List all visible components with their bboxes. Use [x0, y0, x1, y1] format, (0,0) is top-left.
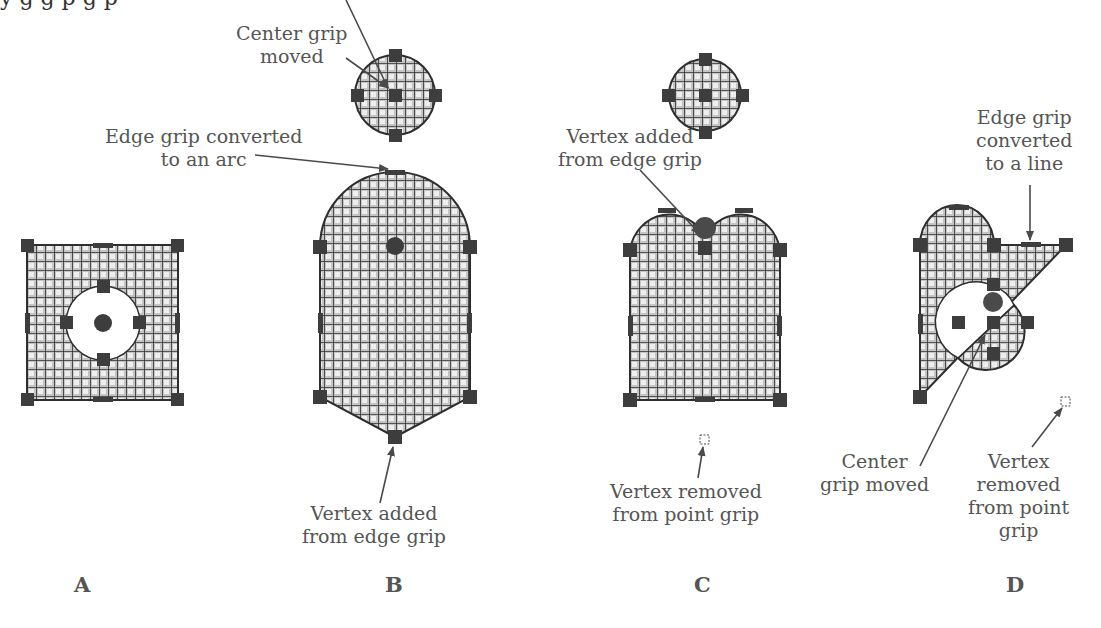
label-line: grip moved: [820, 473, 929, 496]
edge-grip-icon: [949, 205, 969, 210]
point-grip-icon: [987, 238, 1001, 252]
arrow-icon: [698, 447, 703, 478]
grip-icon: [351, 89, 364, 102]
panel-b-small-circle: [351, 49, 442, 142]
grip-icon: [952, 316, 965, 329]
label-line: Center grip: [236, 22, 348, 45]
grip-icon: [699, 53, 712, 66]
point-grip-icon: [21, 239, 34, 252]
label-vertex-added-c: Vertex added from edge grip: [558, 125, 702, 171]
label-line: Vertex: [968, 450, 1069, 473]
point-grip-icon: [171, 239, 184, 252]
grip-icon: [987, 347, 1000, 360]
point-grip-icon: [913, 238, 927, 252]
arrow-icon: [1032, 408, 1062, 447]
point-grip-icon: [773, 393, 787, 407]
label-line: Edge grip converted: [105, 125, 302, 148]
added-vertex-grip-icon: [388, 430, 402, 444]
label-line: Vertex added: [302, 502, 446, 525]
hole-grip-icon: [133, 316, 146, 329]
removed-vertex-icon: [700, 435, 709, 444]
center-grip-icon: [389, 89, 402, 102]
label-center-grip-moved-b: Center grip moved: [236, 22, 348, 68]
arrow-icon: [380, 447, 393, 503]
edge-grip-icon: [25, 313, 30, 333]
center-grip-icon: [386, 237, 404, 255]
point-grip-icon: [313, 240, 327, 254]
center-grip-icon: [94, 314, 112, 332]
grip-icon: [987, 278, 1000, 291]
grip-icon: [429, 89, 442, 102]
point-grip-icon: [313, 390, 327, 404]
edge-grip-icon: [93, 397, 113, 402]
edge-grip-icon: [918, 314, 923, 334]
panel-letter-b: B: [385, 572, 403, 597]
hole-grip-icon: [97, 353, 110, 366]
edge-grip-icon: [735, 208, 753, 213]
edge-grip-icon: [318, 313, 323, 333]
label-line: Edge grip: [976, 106, 1072, 129]
panel-letter-a: A: [74, 572, 90, 597]
point-grip-icon: [773, 243, 787, 257]
point-grip-icon: [21, 393, 34, 406]
label-line: grip: [968, 519, 1069, 542]
center-grip-icon: [983, 292, 1003, 312]
edge-grip-icon: [1021, 242, 1041, 247]
point-grip-icon: [913, 390, 927, 404]
grip-icon: [389, 129, 402, 142]
label-line: Vertex added: [558, 125, 702, 148]
edge-grip-icon: [777, 316, 782, 336]
grip-icon: [389, 49, 402, 62]
label-line: Center: [820, 450, 929, 473]
panel-a-shape: [21, 239, 184, 406]
panel-letter-c: C: [694, 572, 711, 597]
point-grip-icon: [171, 393, 184, 406]
edge-grip-icon: [628, 316, 633, 336]
label-line: to a line: [976, 152, 1072, 175]
grip-icon: [1021, 316, 1034, 329]
panel-c-shape: [623, 208, 787, 407]
edge-grip-icon: [695, 397, 715, 402]
panel-b-shape: [313, 170, 477, 444]
label-line: from point: [968, 496, 1069, 519]
removed-vertex-icon: [1061, 397, 1070, 406]
center-grip-icon: [694, 217, 716, 239]
grip-icon: [987, 316, 1000, 329]
edge-grip-icon: [658, 208, 676, 213]
point-grip-icon: [463, 390, 477, 404]
label-line: removed: [968, 473, 1069, 496]
point-grip-icon: [1059, 238, 1073, 252]
grip-icon: [662, 89, 675, 102]
hole-grip-icon: [60, 316, 73, 329]
label-line: converted: [976, 129, 1072, 152]
grip-icon: [736, 89, 749, 102]
label-edge-grip-line: Edge grip converted to a line: [976, 106, 1072, 175]
hole-grip-icon: [97, 280, 110, 293]
panel-d-shape: [913, 205, 1073, 404]
edge-grip-icon: [467, 313, 472, 333]
edge-grip-icon: [175, 313, 180, 333]
edge-grip-icon: [93, 243, 113, 248]
label-vertex-removed-d: Vertex removed from point grip: [968, 450, 1069, 542]
label-vertex-removed-c: Vertex removed from point grip: [610, 480, 762, 526]
label-line: from edge grip: [558, 148, 702, 171]
label-line: moved: [236, 45, 348, 68]
diagram-canvas: [0, 0, 1101, 628]
label-edge-grip-arc: Edge grip converted to an arc: [105, 125, 302, 171]
added-vertex-grip-icon: [698, 241, 712, 255]
label-line: to an arc: [105, 148, 302, 171]
point-grip-icon: [623, 243, 637, 257]
point-grip-icon: [463, 240, 477, 254]
label-line: from point grip: [610, 503, 762, 526]
edge-grip-icon: [385, 170, 405, 175]
panel-letter-d: D: [1006, 572, 1024, 597]
center-grip-icon: [699, 89, 712, 102]
label-center-grip-moved-d: Center grip moved: [820, 450, 929, 496]
label-line: Vertex removed: [610, 480, 762, 503]
label-vertex-added-b: Vertex added from edge grip: [302, 502, 446, 548]
label-line: from edge grip: [302, 525, 446, 548]
point-grip-icon: [623, 393, 637, 407]
